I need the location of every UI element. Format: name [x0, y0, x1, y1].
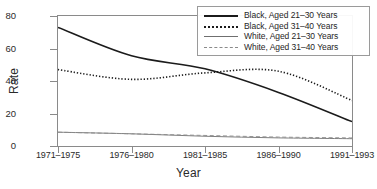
x-tick-mark	[205, 147, 206, 153]
legend-line-swatch-icon	[204, 21, 238, 31]
y-tick-mark	[50, 81, 57, 82]
legend-item: Black, Aged 21–30 Years	[200, 10, 366, 21]
legend-item-label: Black, Aged 31–40 Years	[244, 21, 337, 31]
x-tick-mark	[132, 147, 133, 153]
y-tick-mark	[50, 49, 57, 50]
legend-item-label: Black, Aged 21–30 Years	[244, 10, 337, 20]
legend-line-swatch-icon	[204, 31, 238, 41]
legend-item-label: White, Aged 31–40 Years	[244, 42, 338, 52]
y-tick-label: 0	[0, 141, 16, 151]
y-tick-mark	[50, 114, 57, 115]
x-tick-mark	[352, 147, 353, 153]
chart-figure: Rate 806040200 1971–19751976–19801981–19…	[0, 0, 377, 189]
x-tick-mark	[279, 147, 280, 153]
legend-item-label: White, Aged 21–30 Years	[244, 31, 338, 41]
chart-legend: Black, Aged 21–30 YearsBlack, Aged 31–40…	[197, 6, 370, 56]
legend-item: Black, Aged 31–40 Years	[200, 21, 366, 32]
x-tick-label: 1991–1993	[312, 150, 377, 160]
series-line	[58, 69, 352, 100]
y-tick-label: 80	[0, 11, 16, 21]
legend-line-swatch-icon	[204, 10, 238, 20]
y-tick-label: 20	[0, 109, 16, 119]
y-tick-label: 60	[0, 44, 16, 54]
x-axis-title: Year	[0, 166, 377, 180]
y-tick-mark	[50, 146, 57, 147]
legend-line-swatch-icon	[204, 42, 238, 52]
x-tick-mark	[58, 147, 59, 153]
y-tick-label: 40	[0, 76, 16, 86]
legend-item: White, Aged 31–40 Years	[200, 42, 366, 53]
y-tick-mark	[50, 16, 57, 17]
legend-item: White, Aged 21–30 Years	[200, 31, 366, 42]
